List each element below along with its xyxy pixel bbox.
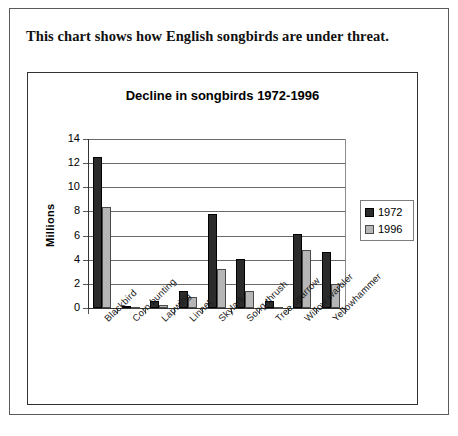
caption-text: This chart shows how English songbirds a… <box>26 28 426 45</box>
bar <box>102 207 111 308</box>
legend-item-1972: 1972 <box>365 204 413 221</box>
legend-swatch-1996 <box>365 225 374 234</box>
y-axis-title: Millions <box>44 190 58 260</box>
y-tick-label: 12 <box>54 157 80 168</box>
legend-label-1972: 1972 <box>378 207 402 218</box>
bar <box>217 269 226 308</box>
legend-item-1996: 1996 <box>365 221 413 238</box>
legend-label-1996: 1996 <box>378 224 402 235</box>
y-tick-label: 6 <box>54 230 80 241</box>
y-tick-label: 2 <box>54 278 80 289</box>
legend-swatch-1972 <box>365 208 374 217</box>
chart-title: Decline in songbirds 1972-1996 <box>28 88 417 103</box>
y-tick-label: 8 <box>54 205 80 216</box>
bar <box>93 157 102 308</box>
y-tick-label: 0 <box>54 302 80 313</box>
bar <box>208 214 217 308</box>
screenshot-page: This chart shows how English songbirds a… <box>0 0 458 436</box>
y-tick-label: 14 <box>54 133 80 144</box>
x-tick-mark <box>88 309 89 314</box>
chart-legend: 1972 1996 <box>360 200 414 241</box>
y-axis-line <box>88 139 89 309</box>
y-tick-label: 10 <box>54 181 80 192</box>
y-tick-label: 4 <box>54 254 80 265</box>
